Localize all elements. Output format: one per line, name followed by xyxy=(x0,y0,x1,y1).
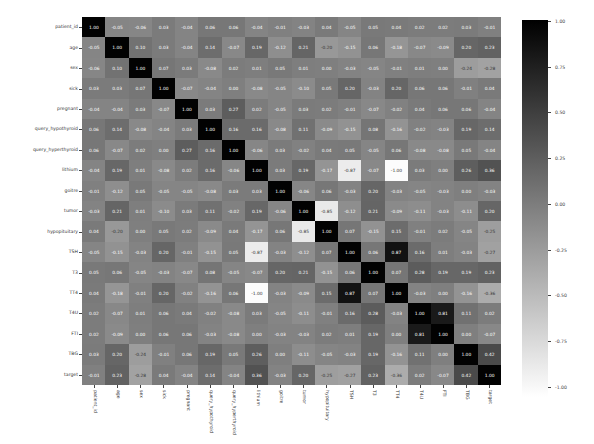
heatmap-cell: -0.27 xyxy=(478,242,502,263)
heatmap-cell: -0.06 xyxy=(82,58,106,79)
heatmap-cell: -0.05 xyxy=(222,262,246,283)
heatmap-cell: 0.06 xyxy=(338,262,362,283)
heatmap-cell: -0.03 xyxy=(431,201,455,222)
column-label: T3 xyxy=(371,390,376,396)
column-label: T4U xyxy=(418,390,423,399)
heatmap-cell: -0.04 xyxy=(152,119,176,140)
heatmap-cell: -0.05 xyxy=(175,181,199,202)
heatmap-cell: -0.05 xyxy=(338,17,362,38)
heatmap-cell: 0.03 xyxy=(222,181,246,202)
heatmap-cell: -0.05 xyxy=(82,242,106,263)
row-label: FTI xyxy=(71,332,78,337)
column-tick xyxy=(303,385,304,388)
column-tick xyxy=(326,385,327,388)
row-tick xyxy=(79,334,82,335)
heatmap-cell: -0.16 xyxy=(385,119,409,140)
heatmap-cell: -0.12 xyxy=(105,181,129,202)
heatmap-cell: 0.07 xyxy=(361,283,385,304)
heatmap-cell: 0.05 xyxy=(361,17,385,38)
heatmap-cell: -0.05 xyxy=(454,221,478,242)
heatmap-cell: 0.06 xyxy=(268,221,292,242)
heatmap-cell: 1.00 xyxy=(222,140,246,161)
colorbar-tick xyxy=(548,158,551,159)
heatmap-cell: 0.03 xyxy=(175,58,199,79)
heatmap-cell: -0.03 xyxy=(129,242,153,263)
column-label: goitre xyxy=(278,390,283,403)
heatmap-cell: 0.03 xyxy=(152,17,176,38)
heatmap-cell: -0.01 xyxy=(408,221,432,242)
heatmap-cell: 0.00 xyxy=(454,324,478,345)
heatmap-cell: 0.00 xyxy=(315,58,339,79)
heatmap-cell: -0.09 xyxy=(315,119,339,140)
heatmap-cell: -0.02 xyxy=(292,140,316,161)
column-label: query_hyperthyroid xyxy=(231,390,236,435)
heatmap-cell: 0.07 xyxy=(385,262,409,283)
column-label: lithium xyxy=(255,390,260,406)
colorbar-tick xyxy=(548,112,551,113)
colorbar-tick-label: 0.50 xyxy=(555,110,565,115)
heatmap-cell: 0.06 xyxy=(454,99,478,120)
heatmap-cell: 0.11 xyxy=(408,344,432,365)
column-tick xyxy=(94,385,95,388)
heatmap-cell: 0.06 xyxy=(105,262,129,283)
heatmap-cell: 0.19 xyxy=(361,324,385,345)
column-label: TSH xyxy=(348,390,353,399)
heatmap-cell: 0.00 xyxy=(431,283,455,304)
heatmap-cell: -0.08 xyxy=(129,119,153,140)
heatmap-cell: -0.09 xyxy=(198,221,222,242)
row-label: age xyxy=(69,45,78,50)
heatmap-cell: -0.18 xyxy=(385,37,409,58)
heatmap-cell: 0.02 xyxy=(431,17,455,38)
column-label: query_hypothyroid xyxy=(208,390,213,433)
heatmap-cell: 0.01 xyxy=(408,58,432,79)
heatmap-cell: -0.05 xyxy=(361,140,385,161)
heatmap-cell: -1.00 xyxy=(245,283,269,304)
heatmap-cell: 0.02 xyxy=(408,17,432,38)
heatmap-cell: 0.00 xyxy=(222,78,246,99)
heatmap-cell: 1.00 xyxy=(152,78,176,99)
correlation-heatmap-figure: patient_idagesexsickpregnantquery_hypoth… xyxy=(0,0,594,444)
heatmap-cell: -0.02 xyxy=(385,99,409,120)
heatmap-cell: 0.02 xyxy=(175,221,199,242)
heatmap-cell: 1.00 xyxy=(315,221,339,242)
heatmap-cell: -0.03 xyxy=(385,303,409,324)
heatmap-cell: 0.16 xyxy=(198,160,222,181)
heatmap-cell: 0.06 xyxy=(82,140,106,161)
heatmap-cell: 0.05 xyxy=(222,344,246,365)
heatmap-cell: 1.00 xyxy=(385,283,409,304)
heatmap-cell: -0.05 xyxy=(361,58,385,79)
heatmap-cell: -0.03 xyxy=(431,119,455,140)
heatmap-cell: -0.04 xyxy=(175,17,199,38)
heatmap-cell: -0.09 xyxy=(105,324,129,345)
heatmap-cell: -0.24 xyxy=(454,58,478,79)
row-label: T4U xyxy=(69,311,78,316)
heatmap-cell: -0.07 xyxy=(152,99,176,120)
heatmap-cell: -0.03 xyxy=(408,283,432,304)
heatmap-cell: -0.04 xyxy=(175,365,199,386)
heatmap-cell: 0.05 xyxy=(129,181,153,202)
column-tick xyxy=(187,385,188,388)
heatmap-cell: 0.01 xyxy=(431,242,455,263)
heatmap-cell: -0.01 xyxy=(454,78,478,99)
row-tick xyxy=(79,89,82,90)
heatmap-cell: 0.05 xyxy=(454,140,478,161)
heatmap-cell: -0.15 xyxy=(315,262,339,283)
heatmap-cell: -0.04 xyxy=(198,78,222,99)
heatmap-cell: 0.08 xyxy=(198,262,222,283)
heatmap-cell: 0.02 xyxy=(82,303,106,324)
heatmap-cell: -0.11 xyxy=(454,201,478,222)
heatmap-cell: 0.04 xyxy=(408,99,432,120)
heatmap-cell: 0.06 xyxy=(198,17,222,38)
heatmap-cell: -0.04 xyxy=(82,99,106,120)
heatmap-cell: -0.02 xyxy=(408,119,432,140)
row-label: pregnant xyxy=(57,107,78,112)
heatmap-cell: 0.03 xyxy=(198,99,222,120)
heatmap-cell: 0.06 xyxy=(152,324,176,345)
heatmap-cell: 0.16 xyxy=(408,242,432,263)
heatmap-cell: 0.02 xyxy=(245,99,269,120)
heatmap-cell: 0.05 xyxy=(152,221,176,242)
heatmap-cell: 0.21 xyxy=(292,262,316,283)
heatmap-cell: 0.00 xyxy=(129,324,153,345)
heatmap-cell: -0.07 xyxy=(361,99,385,120)
heatmap-cell: -0.05 xyxy=(268,78,292,99)
